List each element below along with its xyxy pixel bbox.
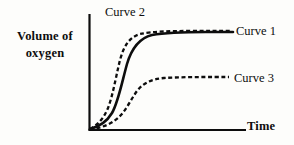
y-axis-label-line-2: oxygen: [3, 47, 87, 60]
curve-1-path: [90, 32, 233, 129]
curve-1-label: Curve 1: [236, 25, 276, 38]
x-axis-label: Time: [247, 120, 275, 133]
curve-2-label: Curve 2: [105, 6, 145, 19]
y-axis-label-line-1: Volume of: [17, 29, 73, 43]
oxygen-volume-graph-figure: Volume of oxygen Time Curve 1 Curve 2 Cu…: [0, 0, 294, 145]
curve-3-label: Curve 3: [234, 72, 274, 85]
y-axis-label: Volume of oxygen: [3, 30, 87, 60]
